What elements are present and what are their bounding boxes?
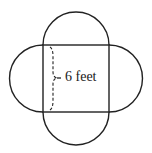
semicircle-bottom — [43, 112, 109, 145]
semicircle-top — [43, 12, 109, 45]
dimension-label: 6 feet — [65, 70, 96, 84]
dimension-brace — [50, 47, 57, 110]
semicircle-left — [10, 45, 43, 112]
semicircle-right — [109, 45, 142, 112]
